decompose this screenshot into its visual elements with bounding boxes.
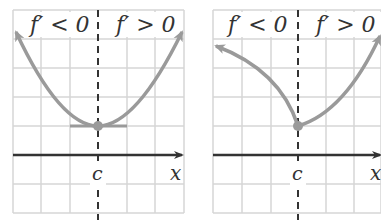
figure: c x f′ < 0 f′ > 0 c x — [0, 0, 381, 224]
critical-point — [293, 121, 303, 131]
label-increasing: f′ > 0 — [114, 12, 176, 37]
right-panel: c x f′ < 0 f′ > 0 — [213, 10, 381, 220]
x-label: x — [370, 161, 381, 185]
label-decreasing: f′ < 0 — [226, 12, 288, 37]
curve — [16, 32, 98, 126]
label-decreasing: f′ < 0 — [28, 12, 90, 37]
curve — [216, 46, 298, 126]
c-label: c — [292, 162, 303, 184]
label-increasing: f′ > 0 — [314, 12, 376, 37]
c-label: c — [92, 162, 103, 184]
x-label: x — [170, 161, 181, 185]
critical-point — [93, 121, 103, 131]
left-panel: c x f′ < 0 f′ > 0 — [13, 10, 184, 220]
